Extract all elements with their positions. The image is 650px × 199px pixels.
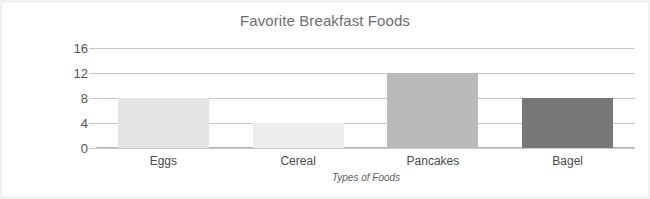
- y-tick-mark: [89, 98, 96, 99]
- x-axis-title: Types of Foods: [96, 172, 636, 183]
- image-edge-top: [0, 0, 650, 3]
- image-edge-left: [0, 0, 2, 199]
- y-tick-label: 12: [74, 66, 88, 79]
- y-tick-mark: [89, 148, 96, 149]
- y-tick-label: 16: [74, 41, 88, 54]
- bar-chart-screenshot: Favorite Breakfast Foods Number of Stude…: [0, 0, 650, 199]
- bar-pancakes[interactable]: [387, 73, 478, 148]
- y-tick-label: 8: [81, 91, 88, 104]
- y-tick-mark: [89, 73, 96, 74]
- y-tick-mark: [89, 48, 96, 49]
- x-tick-label-cereal: Cereal: [280, 154, 315, 168]
- bar-cereal[interactable]: [253, 123, 344, 148]
- image-edge-bottom: [0, 196, 650, 199]
- x-tick-label-bagel: Bagel: [552, 154, 583, 168]
- plot-area: 0481216: [96, 48, 635, 148]
- bar-eggs[interactable]: [118, 98, 209, 148]
- gridline: 16: [96, 48, 635, 49]
- chart-title: Favorite Breakfast Foods: [0, 12, 650, 29]
- y-tick-label: 4: [81, 116, 88, 129]
- gridline: 12: [96, 73, 635, 74]
- x-tick-label-eggs: Eggs: [150, 154, 177, 168]
- bar-bagel[interactable]: [522, 98, 613, 148]
- x-tick-label-pancakes: Pancakes: [407, 154, 460, 168]
- y-tick-label: 0: [81, 141, 88, 154]
- y-tick-mark: [89, 123, 96, 124]
